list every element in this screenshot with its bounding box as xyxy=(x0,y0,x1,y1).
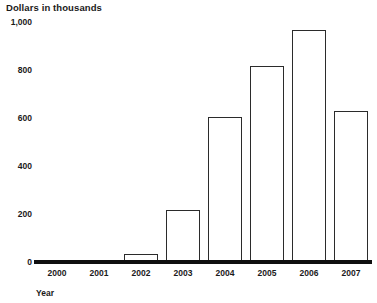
x-tick-label-2000: 2000 xyxy=(48,268,67,278)
bar-slot xyxy=(288,22,330,262)
y-tick-label: 600 xyxy=(18,113,32,123)
bar-2006[interactable] xyxy=(292,30,326,262)
bar-slot xyxy=(36,22,78,262)
x-tick-label-2004: 2004 xyxy=(216,268,235,278)
y-axis: 02004006008001,000 xyxy=(0,22,32,262)
bar-slot xyxy=(246,22,288,262)
y-tick-label: 200 xyxy=(18,209,32,219)
x-tick-label-2005: 2005 xyxy=(258,268,277,278)
bars-layer xyxy=(36,22,372,262)
bar-slot xyxy=(330,22,372,262)
y-tick-label: 1,000 xyxy=(11,17,32,27)
bar-2005[interactable] xyxy=(250,66,284,262)
x-tick-label-2006: 2006 xyxy=(300,268,319,278)
x-tick-label-2003: 2003 xyxy=(174,268,193,278)
x-tick-label-2007: 2007 xyxy=(342,268,361,278)
bar-chart: Dollars in thousands 02004006008001,000 … xyxy=(0,0,377,303)
y-tick-label: 0 xyxy=(27,257,32,267)
chart-title: Dollars in thousands xyxy=(6,2,102,13)
x-axis-labels: 20002001200220032004200520062007 xyxy=(36,268,372,284)
bar-slot xyxy=(120,22,162,262)
bar-2004[interactable] xyxy=(208,117,242,262)
bar-2003[interactable] xyxy=(166,210,200,262)
x-axis-title: Year xyxy=(36,288,54,298)
bar-2007[interactable] xyxy=(334,111,368,262)
x-tick-label-2002: 2002 xyxy=(132,268,151,278)
bar-slot xyxy=(204,22,246,262)
bar-slot xyxy=(78,22,120,262)
x-axis-baseline xyxy=(34,260,372,264)
y-tick-label: 400 xyxy=(18,161,32,171)
y-tick-label: 800 xyxy=(18,65,32,75)
bar-slot xyxy=(162,22,204,262)
x-tick-label-2001: 2001 xyxy=(90,268,109,278)
